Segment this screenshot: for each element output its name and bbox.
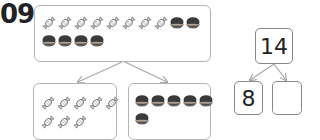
wrapped-candy-icon (88, 95, 104, 111)
cookie-icon (169, 15, 185, 31)
part-left-box (33, 83, 117, 140)
cookie-icon (89, 33, 105, 49)
part-right-box (128, 83, 211, 140)
wrapped-candy-icon (153, 15, 169, 31)
cookie-icon (73, 33, 89, 49)
whole-row-2 (41, 33, 105, 49)
wrapped-candy-icon (56, 95, 72, 111)
wrapped-candy-icon (72, 114, 88, 130)
cookie-icon (198, 93, 214, 109)
cookie-icon (166, 93, 182, 109)
cookie-icon (182, 93, 198, 109)
wrapped-candy-icon (104, 95, 120, 111)
cookie-icon (57, 33, 73, 49)
whole-number-box: 14 (255, 28, 293, 64)
wrapped-candy-icon (105, 15, 121, 31)
wrapped-candy-icon (57, 15, 73, 31)
wrapped-candy-icon (56, 114, 72, 130)
part1-number-box: 8 (234, 81, 263, 115)
cookie-icon (134, 93, 150, 109)
wrapped-candy-icon (89, 15, 105, 31)
left-row-1 (40, 95, 120, 111)
cookie-icon (41, 33, 57, 49)
right-row-1 (134, 93, 214, 109)
wrapped-candy-icon (40, 95, 56, 111)
cookie-icon (134, 111, 150, 127)
whole-picture-box (34, 5, 211, 62)
cookie-icon (150, 93, 166, 109)
wrapped-candy-icon (73, 15, 89, 31)
left-row-2 (40, 114, 88, 130)
whole-row-1 (41, 15, 201, 31)
cookie-icon (185, 15, 201, 31)
wrapped-candy-icon (41, 15, 57, 31)
right-row-2 (134, 111, 150, 127)
part2-answer-box[interactable] (272, 81, 302, 115)
wrapped-candy-icon (72, 95, 88, 111)
wrapped-candy-icon (121, 15, 137, 31)
wrapped-candy-icon (40, 114, 56, 130)
wrapped-candy-icon (137, 15, 153, 31)
